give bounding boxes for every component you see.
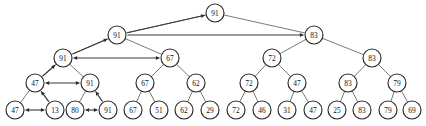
tree-edge [188,91,193,102]
percolate-91-to-91b [73,39,108,54]
tree-node[interactable]: 83 [353,101,371,119]
node-circle [263,49,281,67]
tree-node[interactable]: 47 [288,74,306,92]
tree-edge [79,91,85,102]
node-circle [379,101,397,119]
node-circle [305,26,323,44]
tree-edge [224,15,305,33]
tree-node[interactable]: 13 [46,101,64,119]
tree-edge [20,90,29,103]
node-circle [253,101,271,119]
node-circle [6,101,24,119]
tree-edge [137,91,142,102]
tree-edge [401,91,407,102]
tree-node[interactable]: 91 [108,26,126,44]
node-circle [54,49,72,67]
tree-edge [200,91,206,102]
tree-node[interactable]: 69 [403,101,421,119]
tree-node[interactable]: 80 [66,101,84,119]
tree-edge [240,91,245,102]
node-circle [328,101,346,119]
node-circle [363,49,381,67]
node-circle [278,101,296,119]
tree-node[interactable]: 67 [124,101,142,119]
node-circle [339,74,357,92]
tree-canvas: 9191839167728347916762724783794713809167… [0,0,426,126]
tree-node[interactable]: 47 [26,74,44,92]
tree-node[interactable]: 79 [388,74,406,92]
arrow-head [94,108,98,112]
node-circle [99,101,117,119]
tree-edge [149,91,155,102]
tree-node[interactable]: 91 [206,4,224,22]
tree-edge [354,64,366,76]
tree-node[interactable]: 47 [304,101,322,119]
node-circle [46,101,64,119]
tree-node[interactable]: 62 [175,101,193,119]
node-circle [240,74,258,92]
tree-node[interactable]: 91 [54,49,72,67]
tree-node[interactable]: 72 [227,101,245,119]
tree-node[interactable]: 72 [263,49,281,67]
node-circle [388,74,406,92]
tree-edge [255,65,266,77]
tree-nodes-group: 9191839167728347916762724783794713809167… [6,4,421,119]
tree-node[interactable]: 83 [363,49,381,67]
tree-node[interactable]: 83 [305,26,323,44]
arrow-head [300,33,304,37]
tree-edge [322,38,363,54]
arrow-head [76,81,80,85]
tree-node[interactable]: 51 [150,101,168,119]
tree-node[interactable]: 79 [379,101,397,119]
tree-node[interactable]: 91 [81,74,99,92]
node-circle [136,74,154,92]
node-circle [403,101,421,119]
tree-edge [302,91,309,103]
tree-edge [151,64,163,76]
arrow-head [201,14,205,18]
arrow-head [26,108,30,112]
node-circle [353,101,371,119]
node-circle [124,101,142,119]
arrow-head [86,108,90,112]
tree-node[interactable]: 72 [240,74,258,92]
node-circle [304,101,322,119]
arrow-head [41,108,45,112]
node-circle [81,74,99,92]
tree-edge [378,64,390,76]
node-circle [66,101,84,119]
node-circle [288,74,306,92]
tree-node[interactable]: 91 [99,101,117,119]
node-circle [206,4,224,22]
tree-node[interactable]: 67 [161,49,179,67]
node-circle [150,101,168,119]
tree-node[interactable]: 29 [201,101,219,119]
tree-edge [352,91,358,102]
tree-node[interactable]: 83 [339,74,357,92]
tree-node[interactable]: 67 [136,74,154,92]
tree-node[interactable]: 62 [187,74,205,92]
tree-edge [391,92,394,102]
tree-edge [253,91,258,102]
tree-edge [125,39,161,55]
node-circle [175,101,193,119]
arrow-head [46,81,50,85]
node-circle [227,101,245,119]
tree-node[interactable]: 31 [278,101,296,119]
node-circle [201,101,219,119]
node-circle [26,74,44,92]
tree-edge [290,91,294,101]
tree-edge [176,64,189,77]
tree-node[interactable]: 46 [253,101,271,119]
percolate-91-to-root [127,15,205,32]
node-circle [108,26,126,44]
tree-node[interactable]: 25 [328,101,346,119]
arrow-head [74,56,78,60]
tree-edge [280,39,306,53]
arrow-head [156,56,160,60]
tree-edge [278,64,290,76]
binary-tree-diagram: 9191839167728347916762724783794713809167… [0,0,426,126]
tree-edge [340,91,344,101]
tree-node[interactable]: 47 [6,101,24,119]
node-circle [187,74,205,92]
